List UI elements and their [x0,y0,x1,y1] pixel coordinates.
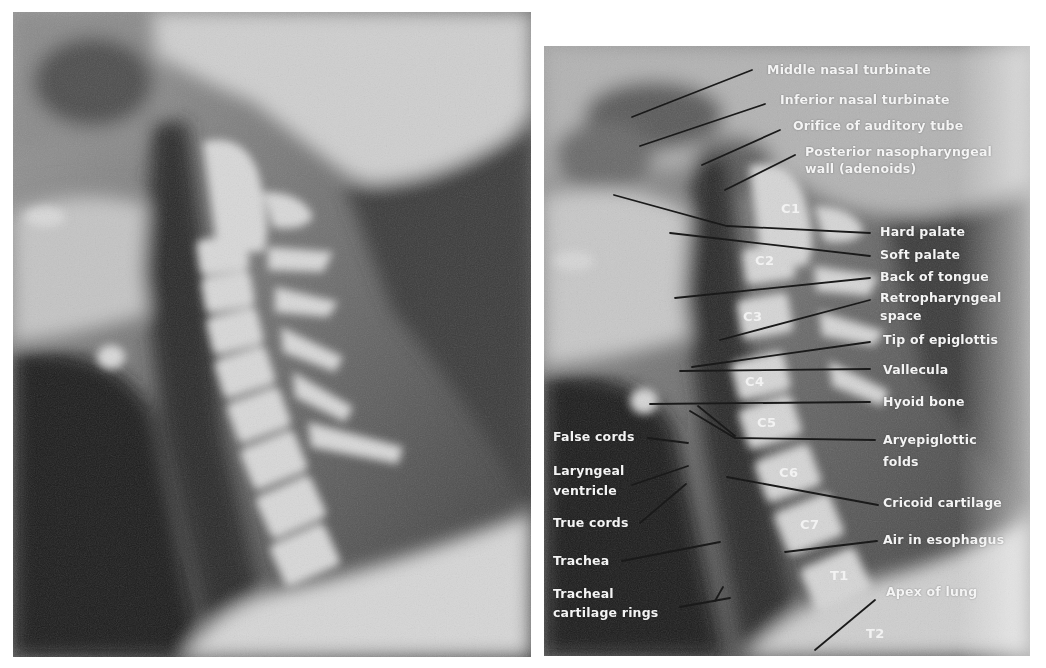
label-tip-of-epiglottis: Tip of epiglottis [883,331,998,349]
vertebra-c4: C4 [745,374,765,389]
label-back-of-tongue: Back of tongue [880,268,989,286]
label-hyoid-bone: Hyoid bone [883,393,965,411]
vertebra-c3: C3 [743,309,763,324]
label-hard-palate: Hard palate [880,223,965,241]
label-inferior-nasal-turbinate: Inferior nasal turbinate [780,91,950,109]
label-vallecula: Vallecula [883,361,948,379]
label-posterior-nasopharyngeal-wall-line2: wall (adenoids) [805,160,916,178]
xray-labeled-image [544,46,1030,656]
label-air-in-esophagus: Air in esophagus [883,531,1004,549]
vertebra-t2: T2 [866,626,885,641]
label-middle-nasal-turbinate: Middle nasal turbinate [767,61,931,79]
label-cricoid-cartilage: Cricoid cartilage [883,494,1002,512]
label-trachea: Trachea [553,552,609,570]
vertebra-c1: C1 [781,201,801,216]
label-tracheal-cartilage-rings-line1: Tracheal [553,585,614,603]
vertebra-c2: C2 [755,253,775,268]
xray-unlabeled [13,12,531,657]
vertebra-c6: C6 [779,465,799,480]
vertebra-t1: T1 [830,568,849,583]
label-aryepiglottic-folds-line2: folds [883,453,919,471]
label-soft-palate: Soft palate [880,246,960,264]
label-false-cords: False cords [553,428,635,446]
label-laryngeal-ventricle-line2: ventricle [553,482,617,500]
vertebra-c5: C5 [757,415,777,430]
xray-unlabeled-image [13,12,531,657]
label-tracheal-cartilage-rings-line2: cartilage rings [553,604,659,622]
label-true-cords: True cords [553,514,629,532]
xray-labeled [544,46,1030,656]
label-aryepiglottic-folds-line1: Aryepiglottic [883,431,977,449]
label-retropharyngeal-space-line2: space [880,307,922,325]
vertebra-c7: C7 [800,517,820,532]
label-retropharyngeal-space-line1: Retropharyngeal [880,289,1001,307]
label-laryngeal-ventricle-line1: Laryngeal [553,462,625,480]
label-orifice-auditory-tube: Orifice of auditory tube [793,117,963,135]
label-apex-of-lung: Apex of lung [886,583,977,601]
label-posterior-nasopharyngeal-wall-line1: Posterior nasopharyngeal [805,143,992,161]
